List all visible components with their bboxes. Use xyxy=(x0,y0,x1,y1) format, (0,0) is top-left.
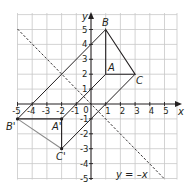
x-tick: 1 xyxy=(105,106,110,116)
y-tick: -4 xyxy=(80,159,88,169)
label-b-prime: B' xyxy=(6,121,16,132)
axes xyxy=(18,18,179,180)
label-c: C xyxy=(136,75,143,86)
x-tick: 3 xyxy=(134,106,139,116)
y-tick: -5 xyxy=(80,174,88,184)
diagram-canvas: -5 -4 -3 -2 -1 1 2 3 4 5 0 5 4 3 2 1 -1 … xyxy=(0,0,185,186)
x-tick: -3 xyxy=(42,106,50,116)
y-tick: 5 xyxy=(82,25,87,35)
coordinate-diagram: -5 -4 -3 -2 -1 1 2 3 4 5 0 5 4 3 2 1 -1 … xyxy=(0,0,185,186)
y-tick: -2 xyxy=(80,129,88,139)
label-c-prime: C' xyxy=(56,151,66,162)
x-axis-label: x xyxy=(177,106,184,117)
x-tick: 5 xyxy=(163,106,168,116)
label-a: A xyxy=(107,62,115,73)
y-tick: 3 xyxy=(82,54,87,64)
y-tick: -3 xyxy=(80,144,88,154)
x-tick: 2 xyxy=(120,106,125,116)
y-axis-label: y xyxy=(81,11,89,22)
y-tick: 2 xyxy=(82,69,87,79)
label-b: B xyxy=(102,17,109,28)
y-axis-arrow-icon xyxy=(88,12,94,19)
x-tick: -5 xyxy=(12,106,20,116)
y-tick: 1 xyxy=(82,84,87,94)
label-a-prime: A' xyxy=(51,121,62,132)
mirror-line-label: y = –x xyxy=(115,169,148,180)
x-tick: -2 xyxy=(56,106,64,116)
x-tick: 4 xyxy=(149,106,154,116)
y-tick: 4 xyxy=(82,39,87,49)
